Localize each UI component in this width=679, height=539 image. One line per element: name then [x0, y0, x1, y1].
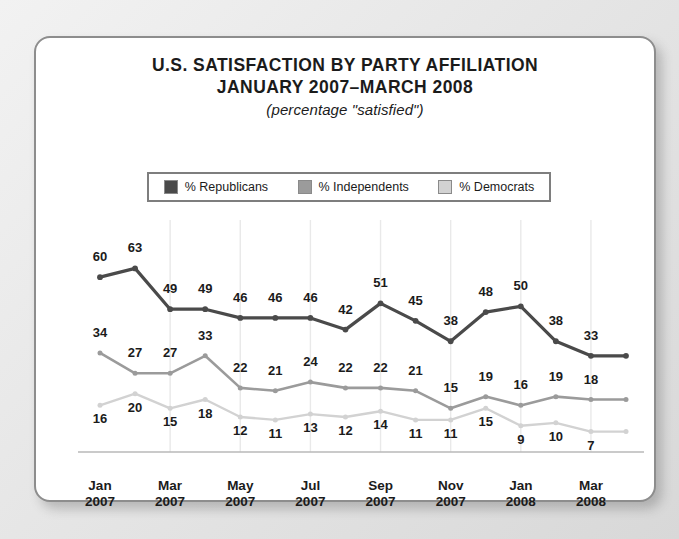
x-axis-tick-label: Nov2007	[421, 478, 481, 510]
series-line	[100, 353, 626, 408]
tick-month: Jul	[280, 478, 340, 494]
x-axis-tick-label: Jan2007	[70, 478, 130, 510]
data-point-marker	[203, 397, 208, 402]
x-axis-tick-label: Mar2007	[140, 478, 200, 510]
data-label: 15	[163, 414, 177, 429]
data-point-marker	[483, 309, 489, 315]
data-point-marker	[168, 406, 173, 411]
chart-legend: % Republicans% Independents% Democrats	[147, 172, 551, 202]
x-axis-tick-label: Jan2008	[491, 478, 551, 510]
data-point-marker	[167, 306, 173, 312]
chart-title-line-1: U.S. SATISFACTION BY PARTY AFFILIATION	[36, 54, 654, 76]
chart-titles: U.S. SATISFACTION BY PARTY AFFILIATION J…	[36, 54, 654, 118]
data-point-marker	[273, 417, 278, 422]
tick-month: Nov	[421, 478, 481, 494]
data-point-marker	[448, 406, 453, 411]
legend-item[interactable]: % Independents	[298, 180, 409, 194]
x-axis-tick-label: Sep2007	[351, 478, 411, 510]
data-point-marker	[448, 417, 453, 422]
data-point-marker	[308, 315, 314, 321]
data-label: 46	[303, 290, 317, 305]
data-label: 20	[128, 400, 142, 415]
data-label: 46	[268, 290, 282, 305]
data-point-marker	[133, 371, 138, 376]
chart-card: U.S. SATISFACTION BY PARTY AFFILIATION J…	[34, 36, 656, 502]
data-point-marker	[448, 338, 454, 344]
data-label: 15	[478, 414, 492, 429]
data-label: 12	[338, 423, 352, 438]
data-label: 22	[373, 360, 387, 375]
tick-month: Jan	[70, 478, 130, 494]
tick-year: 2007	[280, 494, 340, 510]
data-label: 7	[587, 438, 594, 453]
data-label: 24	[303, 354, 318, 369]
data-point-marker	[272, 315, 278, 321]
data-point-marker	[378, 409, 383, 414]
data-label: 34	[93, 325, 108, 340]
data-label: 46	[233, 290, 247, 305]
data-label: 18	[584, 372, 598, 387]
data-label: 22	[233, 360, 247, 375]
data-point-marker	[413, 417, 418, 422]
data-label: 16	[514, 377, 528, 392]
legend-swatch-icon	[298, 180, 312, 194]
data-label: 16	[93, 411, 107, 426]
data-point-marker	[308, 412, 313, 417]
data-point-marker	[588, 397, 593, 402]
data-point-marker	[273, 388, 278, 393]
data-point-marker	[553, 420, 558, 425]
data-label: 49	[163, 281, 177, 296]
data-point-marker	[133, 391, 138, 396]
data-point-marker	[98, 403, 103, 408]
chart-title-line-2: JANUARY 2007–MARCH 2008	[36, 76, 654, 98]
series-line	[100, 268, 626, 355]
data-label: 33	[584, 328, 598, 343]
data-point-marker	[553, 394, 558, 399]
data-label: 18	[198, 406, 212, 421]
tick-year: 2008	[561, 494, 621, 510]
data-point-marker	[237, 315, 243, 321]
data-point-marker	[202, 306, 208, 312]
legend-item-label: % Democrats	[459, 180, 534, 194]
legend-item-label: % Republicans	[185, 180, 268, 194]
data-label: 12	[233, 423, 247, 438]
data-label: 10	[549, 429, 563, 444]
x-axis-ticks: Jan2007Mar2007May2007Jul2007Sep2007Nov20…	[44, 478, 650, 524]
data-label: 60	[93, 249, 107, 264]
tick-year: 2007	[351, 494, 411, 510]
legend-item[interactable]: % Democrats	[438, 180, 534, 194]
legend-item[interactable]: % Republicans	[164, 180, 268, 194]
data-label: 63	[128, 240, 142, 255]
data-label: 15	[443, 380, 457, 395]
x-axis-tick-label: Mar2008	[561, 478, 621, 510]
data-point-marker	[553, 338, 559, 344]
data-label: 21	[268, 363, 282, 378]
tick-month: Jan	[491, 478, 551, 494]
data-label: 14	[373, 417, 388, 432]
chart-subtitle: (percentage "satisfied")	[36, 101, 654, 118]
data-label: 50	[514, 278, 528, 293]
data-point-marker	[413, 388, 418, 393]
data-point-marker	[624, 397, 629, 402]
data-label: 11	[409, 426, 423, 441]
data-label: 38	[549, 313, 563, 328]
tick-year: 2007	[421, 494, 481, 510]
tick-month: Sep	[351, 478, 411, 494]
data-point-marker	[238, 385, 243, 390]
tick-year: 2007	[70, 494, 130, 510]
data-label: 45	[408, 293, 422, 308]
tick-year: 2007	[210, 494, 270, 510]
line-chart-svg: 6063494946464642514538485038333427273322…	[44, 220, 650, 482]
data-label: 38	[443, 313, 457, 328]
data-point-marker	[168, 371, 173, 376]
data-point-marker	[518, 303, 524, 309]
data-point-marker	[623, 353, 629, 359]
x-axis-tick-label: Jul2007	[280, 478, 340, 510]
plot-area: 6063494946464642514538485038333427273322…	[44, 220, 650, 482]
data-label: 21	[408, 363, 422, 378]
legend-item-label: % Independents	[319, 180, 409, 194]
data-point-marker	[518, 423, 523, 428]
data-label: 49	[198, 281, 212, 296]
data-point-marker	[308, 380, 313, 385]
tick-year: 2007	[140, 494, 200, 510]
